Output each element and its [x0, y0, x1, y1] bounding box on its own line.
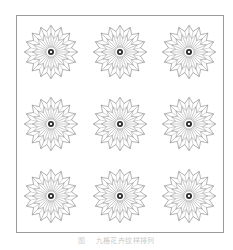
rosette-petal-edge [108, 200, 117, 214]
rosette-petal-edge [193, 197, 209, 200]
rosette-motif [160, 167, 218, 225]
rosette-petal-edge [168, 192, 184, 195]
rosette-petal-edge [124, 125, 140, 128]
rosette-petal-edge [177, 179, 186, 193]
rosette-cell [86, 88, 155, 160]
rosette-petal-edge [168, 197, 184, 200]
rosette-spoke [55, 56, 70, 71]
rosette-hub-hole [50, 123, 52, 125]
rosette-petal-edge [124, 48, 140, 51]
rosette-petal-edge [56, 197, 72, 200]
rosette-petal-edge [31, 53, 47, 56]
rosette-spoke [170, 200, 185, 215]
rosette-spoke [192, 105, 207, 120]
rosette-cell [154, 160, 223, 232]
rosette-cell [154, 16, 223, 88]
rosette-petal-edge [108, 35, 117, 49]
plate-border-box [16, 15, 224, 233]
rosette-petal-edge [31, 48, 47, 51]
rosette-petal-edge [34, 40, 48, 49]
rosette-petal-edge [124, 197, 140, 200]
rosette-petal-edge [121, 56, 124, 72]
rosette-spoke [32, 128, 47, 143]
rosette-spoke [55, 200, 70, 215]
rosette-petal-edge [31, 197, 47, 200]
rosette-petal-edge [55, 184, 69, 193]
rosette-petal-edge [47, 176, 50, 192]
rosette-petal-edge [124, 53, 140, 56]
rosette-petal-edge [31, 120, 47, 123]
rosette-petal-edge [56, 125, 72, 128]
rosette-petal-edge [191, 107, 200, 121]
rosette-hub-hole [50, 195, 52, 197]
rosette-petal-edge [100, 120, 116, 123]
rosette-petal-edge [171, 198, 185, 207]
figure-caption: 图 九格花卉纹样排列 [0, 236, 233, 250]
rosette-petal-edge [124, 184, 138, 193]
rosette-petal-edge [171, 126, 185, 135]
rosette-petal-edge [193, 53, 209, 56]
rosette-petal-edge [193, 120, 209, 123]
rosette-cell [17, 160, 86, 232]
rosette-petal-edge [52, 104, 55, 120]
rosette-petal-edge [121, 176, 124, 192]
rosette-petal-edge [54, 35, 63, 49]
rosette-petal-edge [103, 54, 117, 63]
rosette-cell [86, 16, 155, 88]
rosette-spoke [101, 128, 116, 143]
rosette-petal-edge [122, 35, 131, 49]
rosette-petal-edge [40, 179, 49, 193]
rosette-motif [91, 23, 149, 81]
rosette-spoke [170, 33, 185, 48]
rosette-cell [17, 16, 86, 88]
rosette-hub-hole [119, 195, 121, 197]
rosette-hub-hole [119, 51, 121, 53]
rosette-spoke [192, 33, 207, 48]
rosette-petal-edge [190, 176, 193, 192]
rosette-spoke [101, 177, 116, 192]
rosette-spoke [101, 105, 116, 120]
rosette-petal-edge [116, 32, 119, 48]
rosette-petal-edge [40, 128, 49, 142]
rosette-spoke [124, 128, 139, 143]
rosette-petal-edge [103, 184, 117, 193]
rosette-spoke [32, 177, 47, 192]
rosette-petal-edge [191, 128, 200, 142]
rosette-petal-edge [121, 32, 124, 48]
rosette-petal-edge [31, 125, 47, 128]
rosette-hub-hole [119, 123, 121, 125]
rosette-petal-edge [171, 40, 185, 49]
rosette-petal-edge [100, 48, 116, 51]
rosette-petal-edge [108, 56, 117, 70]
rosette-spoke [170, 177, 185, 192]
rosette-petal-edge [103, 112, 117, 121]
rosette-petal-edge [192, 112, 206, 121]
rosette-petal-edge [177, 35, 186, 49]
rosette-spoke [192, 177, 207, 192]
rosette-petal-edge [108, 107, 117, 121]
rosette-petal-edge [191, 56, 200, 70]
rosette-spoke [124, 105, 139, 120]
rosette-petal-edge [54, 200, 63, 214]
rosette-petal-edge [171, 184, 185, 193]
rosette-petal-edge [185, 200, 188, 216]
rosette-petal-edge [190, 104, 193, 120]
rosette-petal-edge [34, 126, 48, 135]
rosette-petal-edge [55, 112, 69, 121]
rosette-petal-edge [124, 198, 138, 207]
rosette-petal-edge [108, 179, 117, 193]
rosette-petal-edge [55, 198, 69, 207]
rosette-petal-edge [116, 128, 119, 144]
rosette-spoke [124, 200, 139, 215]
rosette-spoke [192, 200, 207, 215]
rosette-hub-hole [187, 123, 189, 125]
rosette-petal-edge [191, 200, 200, 214]
rosette-petal-edge [40, 56, 49, 70]
rosette-petal-edge [168, 120, 184, 123]
rosette-petal-edge [168, 48, 184, 51]
rosette-spoke [32, 200, 47, 215]
rosette-hub-hole [50, 51, 52, 53]
rosette-petal-edge [47, 128, 50, 144]
rosette-spoke [192, 56, 207, 71]
rosette-petal-edge [122, 128, 131, 142]
